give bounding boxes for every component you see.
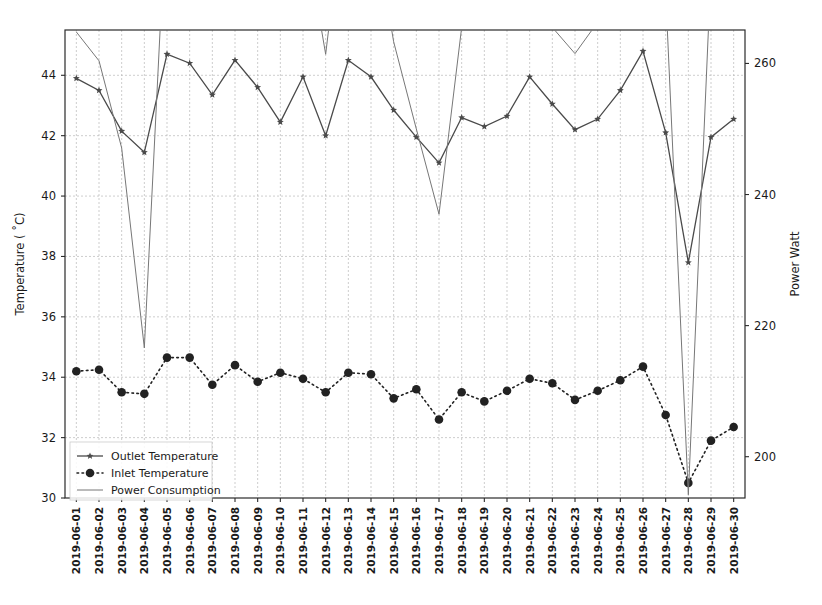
- xtick-label: 2019-06-22: [546, 507, 558, 574]
- y-axis-title: Temperature ( ˚C): [12, 213, 27, 317]
- data-point-marker: [208, 380, 217, 389]
- xtick-label: 2019-06-02: [93, 507, 105, 574]
- ytick-label-right: 220: [754, 319, 776, 333]
- xtick-label: 2019-06-04: [138, 507, 150, 574]
- ytick-label-right: 240: [754, 188, 776, 202]
- data-point-marker: [72, 367, 81, 376]
- xtick-label: 2019-06-08: [229, 507, 241, 574]
- data-point-marker: [96, 87, 103, 94]
- xtick-label: 2019-06-10: [274, 507, 286, 574]
- legend-entry-label: Inlet Temperature: [111, 467, 209, 480]
- xtick-label: 2019-06-09: [252, 507, 264, 574]
- xtick-label: 2019-06-29: [705, 507, 717, 574]
- xtick-label: 2019-06-28: [682, 507, 694, 574]
- xtick-label: 2019-06-13: [342, 507, 354, 574]
- data-point-marker: [571, 396, 580, 405]
- chart-legend: Outlet TemperatureInlet TemperaturePower…: [70, 442, 221, 500]
- data-point-marker: [321, 388, 330, 397]
- ytick-label-left: 34: [41, 370, 56, 384]
- ytick-label-left: 44: [41, 68, 56, 82]
- xtick-label: 2019-06-06: [184, 507, 196, 574]
- ytick-label-left: 40: [41, 189, 56, 203]
- data-point-marker: [276, 368, 285, 377]
- data-point-marker: [480, 397, 489, 406]
- xtick-label: 2019-06-14: [365, 507, 377, 574]
- data-point-marker: [367, 370, 376, 379]
- xtick-label: 2019-06-15: [388, 507, 400, 574]
- xtick-label: 2019-06-11: [297, 507, 309, 574]
- xtick-label: 2019-06-27: [660, 507, 672, 574]
- data-point-marker: [661, 411, 670, 420]
- series-outlet-temperature: [73, 48, 737, 266]
- data-point-marker: [617, 87, 624, 94]
- series-line: [76, 0, 733, 495]
- xtick-label: 2019-06-20: [501, 507, 513, 574]
- data-point-marker: [231, 361, 240, 370]
- data-point-marker: [253, 377, 262, 386]
- xtick-label: 2019-06-03: [116, 507, 128, 574]
- data-point-marker: [186, 60, 193, 67]
- data-point-marker: [412, 385, 421, 394]
- data-point-marker: [299, 374, 308, 383]
- xtick-label: 2019-06-12: [320, 507, 332, 574]
- xtick-label: 2019-06-01: [70, 507, 82, 574]
- legend-entry-label: Outlet Temperature: [111, 450, 218, 463]
- xtick-label: 2019-06-18: [456, 507, 468, 574]
- data-point-marker: [639, 362, 648, 371]
- data-point-marker: [95, 365, 104, 374]
- chart-canvas: 30323436384042442002202402602019-06-0120…: [0, 0, 822, 605]
- ytick-label-right: 260: [754, 56, 776, 70]
- chart-figure: 30323436384042442002202402602019-06-0120…: [0, 0, 822, 605]
- data-point-marker: [163, 353, 172, 362]
- xtick-label: 2019-06-05: [161, 507, 173, 574]
- data-point-marker: [435, 415, 444, 424]
- data-point-marker: [140, 390, 149, 399]
- xtick-label: 2019-06-21: [524, 507, 536, 574]
- data-point-marker: [322, 132, 329, 139]
- xtick-label: 2019-06-16: [410, 507, 422, 574]
- data-point-marker: [185, 353, 194, 362]
- data-point-marker: [389, 394, 398, 403]
- data-point-marker: [729, 423, 738, 432]
- data-point-marker: [504, 112, 511, 119]
- series-power-consumption: [76, 0, 733, 495]
- data-point-marker: [457, 388, 466, 397]
- xtick-label: 2019-06-23: [569, 507, 581, 574]
- data-point-marker: [481, 123, 488, 130]
- ytick-label-left: 36: [41, 310, 56, 324]
- xtick-label: 2019-06-17: [433, 507, 445, 574]
- grid-layer: [65, 30, 745, 498]
- series-line: [76, 51, 733, 262]
- data-point-marker: [503, 387, 512, 396]
- ytick-label-left: 32: [41, 431, 56, 445]
- legend-entry-label: Power Consumption: [111, 484, 221, 497]
- data-point-marker: [525, 374, 534, 383]
- xtick-label: 2019-06-26: [637, 507, 649, 574]
- data-point-marker: [685, 259, 692, 266]
- series-layer: [72, 0, 738, 495]
- data-point-marker: [616, 376, 625, 385]
- axis-ticks-layer: [61, 63, 749, 502]
- y2-axis-title: Power Watt: [788, 231, 802, 297]
- data-point-marker: [593, 387, 602, 396]
- xtick-label: 2019-06-30: [728, 507, 740, 574]
- legend-swatch-marker: [86, 469, 95, 478]
- ytick-label-right: 200: [754, 450, 776, 464]
- ytick-label-left: 42: [41, 129, 56, 143]
- ytick-label-left: 30: [41, 491, 56, 505]
- xtick-label: 2019-06-07: [206, 507, 218, 574]
- data-point-marker: [344, 368, 353, 377]
- data-point-marker: [707, 436, 716, 445]
- xtick-label: 2019-06-19: [478, 507, 490, 574]
- xtick-label: 2019-06-25: [614, 507, 626, 574]
- ytick-label-left: 38: [41, 249, 56, 263]
- data-point-marker: [117, 388, 126, 397]
- xtick-label: 2019-06-24: [592, 507, 604, 574]
- data-point-marker: [548, 379, 557, 388]
